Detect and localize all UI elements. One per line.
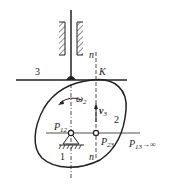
label-n-top: n [89,49,94,60]
label-omega: ω2 [76,93,87,106]
label-k: K [98,66,107,77]
label-p12: P12 [53,121,68,134]
instant-center-p23 [93,130,98,135]
label-p13: P13→∞ [128,138,156,151]
velocity-arrow-icon [94,103,98,122]
left-guide [59,22,65,55]
follower-joint [66,76,76,80]
label-link3: 3 [35,66,40,77]
label-n-bottom: n [89,151,94,162]
label-p23: P23 [100,136,115,149]
label-link1: 1 [60,151,65,162]
cam-mechanism-diagram: 3 K n n ω2 v3 2 1 P12 P23 P13→∞ [0,0,173,187]
label-v3: v3 [99,105,107,118]
right-guide [77,22,83,55]
label-link2: 2 [114,114,119,125]
